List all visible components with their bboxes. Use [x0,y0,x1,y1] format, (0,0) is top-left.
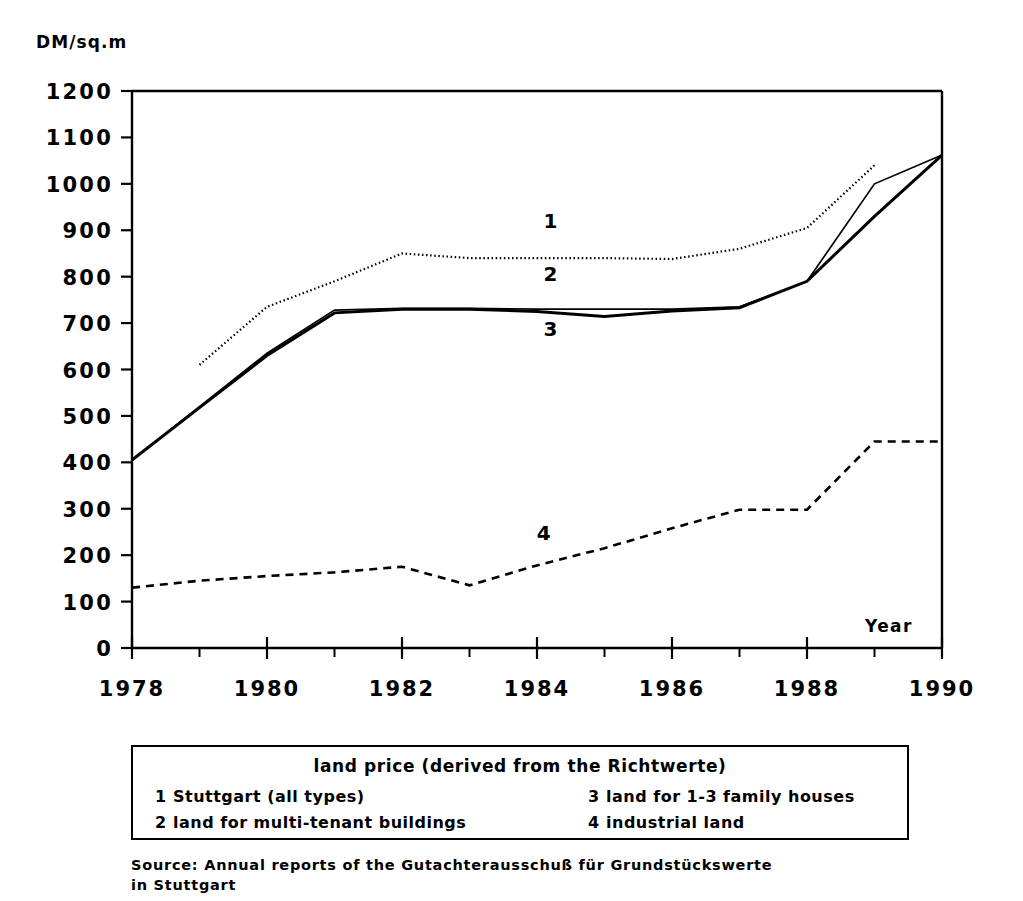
y-axis-tick-label: 0 [96,637,113,661]
legend-item-1: 1Stuttgart (all types) [155,787,365,806]
series-inline-label-4: 4 [537,521,551,545]
series-line-3 [132,155,942,460]
legend-item-2-label: land for multi-tenant buildings [173,813,466,832]
x-axis-tick-label: 1986 [639,677,705,701]
y-axis-tick-label: 100 [63,591,113,615]
y-axis-tick-label: 700 [63,312,113,336]
legend-item-3-label: land for 1-3 family houses [606,787,855,806]
x-axis-tick-label: 1982 [369,677,435,701]
series-line-2 [132,155,942,460]
y-axis-tick-label: 400 [63,451,113,475]
legend-panel: land price (derived from the Richtwerte)… [131,745,909,840]
y-axis-tick-label: 1200 [46,80,113,104]
y-axis-tick-label: 500 [63,405,113,429]
legend-item-4-number: 4 [588,813,606,832]
line-chart-svg: DM/sq.m 01002003004005006007008009001000… [0,0,1023,710]
series-inline-label-2: 2 [544,262,558,286]
legend-item-3-number: 3 [588,787,606,806]
x-axis-tick-label: 1984 [504,677,570,701]
legend-item-3: 3land for 1-3 family houses [588,787,855,806]
legend-title: land price (derived from the Richtwerte) [133,756,907,776]
x-axis-tick-label: 1978 [99,677,165,701]
legend-item-4: 4industrial land [588,813,745,832]
source-note: Source: Annual reports of the Gutachtera… [131,856,772,895]
x-axis-tick-label: 1980 [234,677,300,701]
y-axis-tick-label: 900 [63,219,113,243]
series-inline-label-3: 3 [544,317,558,341]
y-axis-tick-label: 200 [63,544,113,568]
legend-item-2-number: 2 [155,813,173,832]
y-axis-tick-label: 800 [63,266,113,290]
x-axis-title: Year [864,616,913,636]
legend-entries: 1Stuttgart (all types) 2land for multi-t… [133,787,907,839]
y-axis-tick-label: 300 [63,498,113,522]
x-axis-tick-label: 1990 [909,677,975,701]
legend-item-1-number: 1 [155,787,173,806]
x-axis-tick-group: 1978198019821984198619881990 [99,637,975,701]
series-line-4 [132,441,942,587]
chart-canvas: DM/sq.m 01002003004005006007008009001000… [0,0,1023,710]
series-inline-labels: 1234 [537,209,558,545]
y-axis-tick-label: 1000 [46,173,113,197]
series-inline-label-1: 1 [544,209,558,233]
y-axis-tick-label: 600 [63,359,113,383]
legend-item-4-label: industrial land [606,813,745,832]
y-axis-tick-group: 0100200300400500600700800900100011001200 [46,80,132,661]
legend-item-1-label: Stuttgart (all types) [173,787,365,806]
y-axis-title: DM/sq.m [36,32,127,52]
chart-page: DM/sq.m 01002003004005006007008009001000… [0,0,1023,901]
legend-item-2: 2land for multi-tenant buildings [155,813,466,832]
y-axis-tick-label: 1100 [46,126,113,150]
x-axis-tick-label: 1988 [774,677,840,701]
